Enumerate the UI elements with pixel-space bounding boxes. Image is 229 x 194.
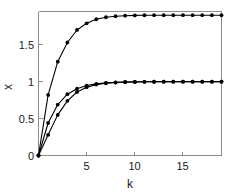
data-point [104, 81, 108, 85]
data-point [123, 80, 127, 84]
data-point [162, 80, 166, 84]
x-tick-label-10: 10 [128, 160, 140, 172]
data-point [75, 90, 79, 94]
y-axis-title: x [1, 84, 15, 90]
data-point [171, 80, 175, 84]
data-point [200, 13, 204, 17]
data-point [75, 87, 79, 91]
data-point [162, 13, 166, 17]
data-point [152, 13, 156, 17]
data-point [191, 13, 195, 17]
data-point [65, 41, 69, 45]
chart-background [0, 0, 229, 194]
data-point [181, 13, 185, 17]
chart-figure: 5 10 15 0 0.5 1 1.5 k x [0, 0, 229, 194]
data-point [152, 80, 156, 84]
data-point [94, 17, 98, 21]
data-point [114, 14, 118, 18]
data-point [85, 85, 89, 89]
data-point [37, 154, 41, 158]
line-chart: 5 10 15 0 0.5 1 1.5 k x [0, 0, 229, 194]
data-point [46, 121, 50, 125]
data-point [114, 81, 118, 85]
data-point [143, 13, 147, 17]
y-tick-label-0: 0 [28, 150, 34, 162]
data-point [210, 80, 214, 84]
data-point [133, 14, 137, 18]
data-point [171, 13, 175, 17]
x-tick-label-5: 5 [83, 160, 89, 172]
data-point [56, 103, 60, 107]
data-point [220, 13, 224, 17]
y-tick-label-1: 1 [28, 76, 34, 88]
data-point [191, 80, 195, 84]
data-point [94, 83, 98, 87]
x-tick-label-15: 15 [176, 160, 188, 172]
data-point [46, 133, 50, 137]
data-point [75, 28, 79, 32]
y-tick-label-0point5: 0.5 [19, 113, 34, 125]
data-point [133, 80, 137, 84]
data-point [123, 14, 127, 18]
data-point [181, 80, 185, 84]
data-point [210, 13, 214, 17]
data-point [56, 60, 60, 64]
data-point [200, 80, 204, 84]
data-point [143, 80, 147, 84]
x-axis-title: k [127, 177, 134, 191]
data-point [85, 21, 89, 25]
y-tick-label-1point5: 1.5 [19, 39, 34, 51]
data-point [56, 113, 60, 117]
data-point [104, 15, 108, 19]
data-point [46, 93, 50, 97]
data-point [220, 80, 224, 84]
data-point [65, 99, 69, 103]
data-point [65, 92, 69, 96]
